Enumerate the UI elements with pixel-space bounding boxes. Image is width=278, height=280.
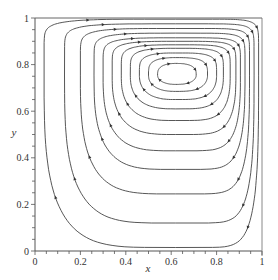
flow-arrow-icon <box>144 44 147 47</box>
streamlines-group <box>44 18 259 247</box>
flow-arrow-icon <box>114 28 117 31</box>
y-tick-label: 0.6 <box>17 106 30 117</box>
y-ticks: 00.20.40.60.81 <box>17 13 36 257</box>
flow-arrow-icon <box>186 81 190 84</box>
x-tick-label: 0.6 <box>165 256 178 267</box>
flow-arrow-icon <box>138 41 141 44</box>
flow-arrow-icon <box>167 63 170 66</box>
streamline <box>139 53 216 100</box>
y-tick-label: 0.4 <box>17 152 30 163</box>
x-tick-label: 0.2 <box>74 256 87 267</box>
x-tick-label: 0.8 <box>210 256 223 267</box>
y-axis-label: y <box>11 126 17 138</box>
streamline-plot: 00.20.40.60.81 00.20.40.60.81 x y <box>0 0 278 280</box>
flow-arrow-icon <box>124 32 127 35</box>
flow-arrow-icon <box>86 18 89 21</box>
y-tick-label: 0.8 <box>17 59 30 70</box>
flow-arrow-icon <box>131 37 134 40</box>
y-tick-label: 0 <box>24 246 29 257</box>
streamline <box>94 33 245 169</box>
flow-arrow-icon <box>73 177 76 181</box>
x-tick-label: 0 <box>33 256 38 267</box>
y-tick-label: 1 <box>24 13 29 24</box>
flow-arrow-icon <box>102 23 105 26</box>
streamline <box>158 63 197 84</box>
x-tick-label: 1 <box>260 256 265 267</box>
y-tick-label: 0.2 <box>17 199 30 210</box>
x-tick-label: 0.4 <box>120 256 133 267</box>
x-axis-label: x <box>145 262 151 274</box>
flow-arrow-icon <box>151 48 154 51</box>
